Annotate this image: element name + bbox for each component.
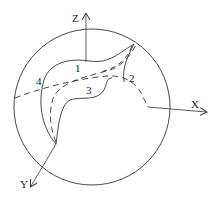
surface-upper-edge — [44, 44, 134, 80]
y-axis — [31, 144, 56, 186]
y-axis-label: Y — [20, 178, 28, 190]
x-axis-label: X — [191, 98, 199, 110]
inner-dashed-curve — [50, 45, 136, 142]
surface-left-edge — [41, 80, 56, 144]
region-label-3: 3 — [86, 84, 92, 96]
diagram-canvas: Z X Y 1 2 3 4 — [0, 0, 219, 198]
region-label-1: 1 — [75, 62, 81, 74]
surface-lower-edge — [56, 78, 112, 144]
region-label-2: 2 — [129, 72, 135, 84]
sphere-outline — [14, 29, 170, 185]
z-axis-label: Z — [72, 12, 79, 24]
region-label-4: 4 — [36, 75, 42, 87]
